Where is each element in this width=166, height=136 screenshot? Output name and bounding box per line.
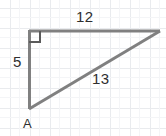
- right-triangle-figure: 12 5 13 A: [0, 0, 166, 136]
- left-side-label: 5: [13, 54, 22, 69]
- vertex-label-a: A: [23, 117, 32, 130]
- top-side-label: 12: [76, 9, 94, 24]
- hypotenuse-label: 13: [92, 71, 110, 86]
